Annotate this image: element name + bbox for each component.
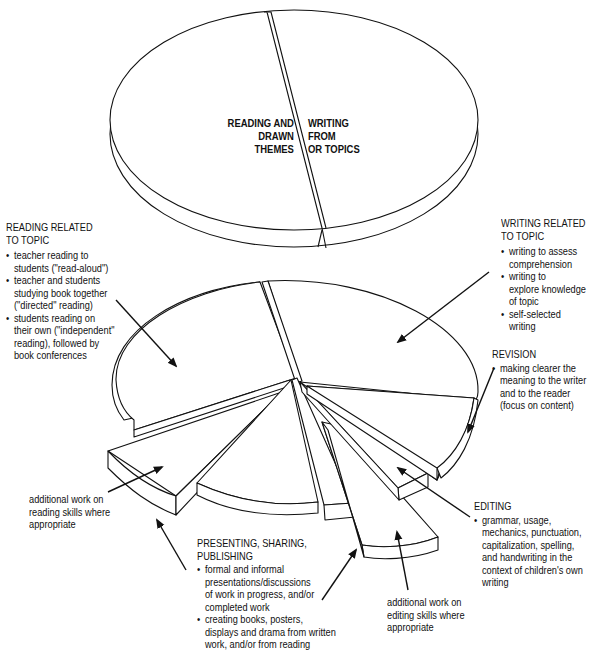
label-editing: EDITING grammar, usage, mechanics, punct… bbox=[474, 500, 584, 589]
label-reading-skills: additional work on reading skills where … bbox=[29, 493, 126, 531]
writing-related-heading: WRITING RELATED TO TOPIC bbox=[501, 217, 589, 242]
top-pie-label-writing: WRITING FROM OR TOPICS bbox=[308, 117, 360, 156]
label-reading-related: READING RELATED TO TOPIC teacher reading… bbox=[6, 221, 120, 362]
presenting-heading: PRESENTING, SHARING, PUBLISHING bbox=[197, 537, 351, 562]
label-writing-related: WRITING RELATED TO TOPIC writing to asse… bbox=[501, 217, 589, 333]
presenting-item: creating books, posters, displays and dr… bbox=[197, 613, 351, 651]
reading-related-item: teacher reading to students ("read-aloud… bbox=[6, 249, 120, 274]
label-presenting: PRESENTING, SHARING, PUBLISHING formal a… bbox=[197, 537, 351, 651]
reading-related-heading: READING RELATED TO TOPIC bbox=[6, 221, 120, 246]
editing-item: grammar, usage, mechanics, punctuation, … bbox=[474, 514, 584, 589]
editing-heading: EDITING bbox=[474, 500, 584, 513]
reading-related-item: teacher and students studying book toget… bbox=[6, 274, 120, 312]
label-revision: REVISION making clearer the meaning to t… bbox=[492, 348, 589, 412]
top-pie-label-reading: READING AND DRAWN THEMES bbox=[220, 117, 294, 156]
top-pie bbox=[110, 10, 478, 248]
reading-related-item: students reading on their own ("independ… bbox=[6, 312, 120, 362]
writing-related-item: writing to assess comprehension bbox=[501, 245, 589, 270]
label-editing-skills: additional work on editing skills where … bbox=[387, 596, 475, 634]
writing-related-item: writing to explore knowledge of topic bbox=[501, 270, 589, 308]
presenting-item: formal and informal presentations/discus… bbox=[197, 563, 351, 613]
writing-related-item: self-selected writing bbox=[501, 308, 589, 333]
arrow-presenting-left bbox=[157, 520, 186, 570]
revision-item: making clearer the meaning to the writer… bbox=[492, 362, 589, 412]
revision-heading: REVISION bbox=[492, 348, 589, 361]
